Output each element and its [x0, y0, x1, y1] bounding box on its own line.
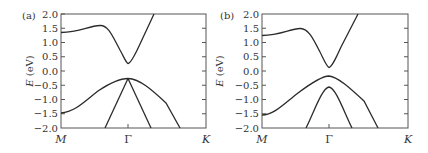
y-tick-labels-a: 2.0 1.5 1.0 0.5 0.0 −0.5 −1.0 −1.5 −2.0: [34, 9, 58, 134]
svg-text:0.5: 0.5: [243, 51, 259, 62]
svg-text:1.5: 1.5: [243, 23, 259, 34]
y-axis-label-b: E (eV): [214, 55, 225, 88]
bands-b: [262, 14, 378, 128]
bands-a: [61, 14, 180, 128]
x-label-Gamma-a: Γ: [124, 133, 132, 146]
plot-frame-b: [262, 14, 408, 128]
svg-text:−0.5: −0.5: [34, 80, 58, 91]
svg-text:−1.0: −1.0: [34, 94, 58, 105]
y-tick-labels-b: 2.0 1.5 1.0 0.5 0.0 −0.5 −1.0 −1.5 −2.0: [235, 9, 259, 134]
x-label-Gamma-b: Γ: [325, 133, 333, 146]
x-label-K-a: K: [201, 133, 211, 146]
panel-b: (b) 2.0 1.5 1.0 0.5 0.0 −0.5 −1.0 −1.5 −…: [214, 9, 413, 147]
valence-band-linear-left-a: [105, 79, 128, 129]
valence-band-linear-right-a: [128, 79, 151, 129]
svg-text:−1.5: −1.5: [235, 108, 259, 119]
svg-text:0.5: 0.5: [42, 51, 58, 62]
svg-text:0.0: 0.0: [243, 66, 259, 77]
svg-text:0.0: 0.0: [42, 66, 58, 77]
conduction-band-b: [262, 14, 358, 68]
x-label-K-b: K: [403, 133, 413, 146]
panel-label-b: (b): [220, 10, 234, 21]
valence-band-upper-b: [262, 76, 378, 128]
band-structure-figure: (a) 2.0 1.5 1.0 0.5 0.0 −0.5 −1.0 −1.5 −…: [0, 0, 428, 153]
svg-text:2.0: 2.0: [42, 9, 58, 20]
svg-text:−2.0: −2.0: [34, 123, 58, 134]
conduction-band-a: [61, 14, 154, 64]
svg-text:1.0: 1.0: [42, 37, 58, 48]
svg-text:−1.0: −1.0: [235, 94, 259, 105]
panel-label-a: (a): [22, 10, 36, 21]
svg-text:1.5: 1.5: [42, 23, 58, 34]
y-axis-label-a: E (eV): [24, 55, 35, 88]
x-label-M-b: M: [255, 133, 268, 146]
x-label-M-a: M: [54, 133, 67, 146]
svg-text:1.0: 1.0: [243, 37, 259, 48]
valence-band-lower-b: [306, 87, 352, 128]
plot-frame-a: [61, 14, 206, 128]
valence-band-upper-a: [61, 79, 180, 129]
svg-text:2.0: 2.0: [243, 9, 259, 20]
svg-text:−0.5: −0.5: [235, 80, 259, 91]
svg-text:−2.0: −2.0: [235, 123, 259, 134]
panel-a: (a) 2.0 1.5 1.0 0.5 0.0 −0.5 −1.0 −1.5 −…: [22, 9, 211, 147]
svg-text:−1.5: −1.5: [34, 108, 58, 119]
y-ticks-a: [61, 14, 206, 128]
